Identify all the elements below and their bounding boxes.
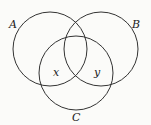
circle-a xyxy=(13,12,87,86)
circle-b xyxy=(64,12,138,86)
circle-c xyxy=(39,36,113,110)
label-a: A xyxy=(8,18,17,31)
venn-diagram: A B C x y xyxy=(0,0,151,125)
label-y: y xyxy=(93,66,101,79)
label-x: x xyxy=(53,66,60,79)
label-c: C xyxy=(72,111,81,124)
label-b: B xyxy=(131,18,140,31)
